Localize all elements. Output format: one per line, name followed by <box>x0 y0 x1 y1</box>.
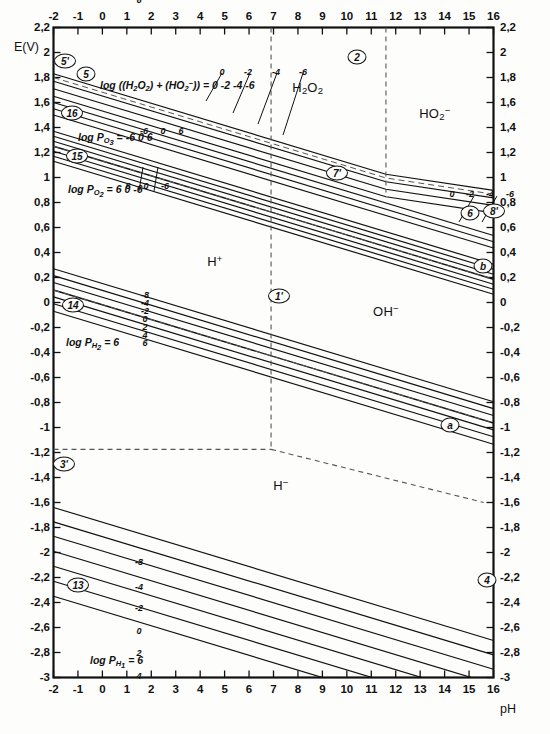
y-tick-label-right: 0,4 <box>500 247 516 259</box>
value-ph2-6: 6 <box>142 339 147 348</box>
x-tick-label-bottom: 14 <box>438 684 451 696</box>
x-tick-label-bottom: 0 <box>99 684 105 696</box>
reaction-badge-5[interactable]: 5 <box>77 67 96 82</box>
value-h2o2sum-1: -2 <box>244 68 252 77</box>
x-tick-label-bottom: -2 <box>48 684 58 696</box>
reaction-badge-16[interactable]: 16 <box>61 106 83 121</box>
reaction-badge-13[interactable]: 13 <box>67 578 89 593</box>
y-tick-label-left: -1,6 <box>6 497 50 509</box>
y-tick-label-right: -2,2 <box>500 572 520 584</box>
x-tick-label-top: 9 <box>319 11 325 23</box>
y-tick-label-right: -0,6 <box>500 372 520 384</box>
species-label-hminus: H− <box>273 477 288 493</box>
curve-po2-2 <box>54 141 494 274</box>
curve-po3-m6 <box>54 103 494 236</box>
y-tick-label-right: 2 <box>500 47 506 59</box>
y-tick-label-right: 1 <box>500 172 506 184</box>
x-axis-title: pH <box>500 702 516 716</box>
y-tick-label-right: -2 <box>500 547 510 559</box>
y-tick-label-right: 1,6 <box>500 97 516 109</box>
x-tick-label-bottom: 13 <box>414 684 427 696</box>
y-tick-label-left: -2,2 <box>6 572 50 584</box>
y-tick-label-right: -2,8 <box>500 647 520 659</box>
value-h2o2sum-2: -4 <box>272 68 280 77</box>
reaction-badge-14[interactable]: 14 <box>62 298 84 313</box>
x-tick-label-bottom: 2 <box>148 684 154 696</box>
value-h2o2sum-0: 0 <box>219 68 224 77</box>
x-tick-label-bottom: -1 <box>73 684 83 696</box>
reaction-badge-4[interactable]: 4 <box>478 573 497 588</box>
value-po2-2: -6 <box>161 182 169 191</box>
reaction-badge-1p[interactable]: 1' <box>268 289 290 304</box>
leader-h2o2-2 <box>258 73 277 124</box>
y-tick-label-right: 0 <box>500 297 506 309</box>
reaction-badge-8p[interactable]: 8' <box>483 204 505 219</box>
y-tick-label-left: -2,4 <box>6 597 50 609</box>
x-tick-label-top: -1 <box>73 11 83 23</box>
y-tick-label-right: 1,2 <box>500 147 516 159</box>
y-tick-label-right: 0,2 <box>500 272 516 284</box>
reaction-badge-b[interactable]: b <box>474 259 493 274</box>
reaction-badge-15[interactable]: 15 <box>66 149 88 164</box>
y-tick-label-left: 0,8 <box>6 197 50 209</box>
x-tick-label-bottom: 6 <box>246 684 252 696</box>
y-tick-label-right: -2,4 <box>500 597 520 609</box>
x-tick-label-top: 8 <box>295 11 301 23</box>
y-tick-label-left: -0,8 <box>6 397 50 409</box>
x-tick-label-top: 1 <box>124 11 130 23</box>
reaction-badge-2[interactable]: 2 <box>348 50 367 65</box>
reaction-badge-3p[interactable]: 3' <box>53 457 75 472</box>
y-tick-label-left: -1 <box>6 422 50 434</box>
reaction-badge-6[interactable]: 6 <box>461 206 480 221</box>
x-tick-label-top: 4 <box>197 11 203 23</box>
y-tick-label-left: -1,2 <box>6 447 50 459</box>
curve-ph2-4 <box>54 304 494 437</box>
curve-annotation-log-ph1: log PH1 = 6 <box>90 655 143 670</box>
x-tick-label-top: 5 <box>221 11 227 23</box>
y-tick-label-left: 0,6 <box>6 222 50 234</box>
species-label-h2o2: H2O2 <box>292 80 323 96</box>
y-tick-label-left: -0,2 <box>6 322 50 334</box>
value-po2-1: 0 <box>143 182 148 191</box>
curve-ph1-2 <box>54 566 494 699</box>
x-tick-label-bottom: 7 <box>270 684 276 696</box>
x-tick-label-top: 7 <box>270 11 276 23</box>
value-ph1-3: 0 <box>136 627 141 636</box>
value-h2o2sum-3: -6 <box>299 68 307 77</box>
x-tick-label-bottom: 5 <box>221 684 227 696</box>
reaction-badge-7p[interactable]: 7' <box>326 166 348 181</box>
value-po3-2: 6 <box>178 127 183 136</box>
curve-po2-m4 <box>54 156 494 289</box>
y-tick-label-left: 0,2 <box>6 272 50 284</box>
y-tick-label-right: -2,6 <box>500 622 520 634</box>
y-tick-label-left: -2,6 <box>6 622 50 634</box>
y-tick-label-right: -1,2 <box>500 447 520 459</box>
x-tick-label-top: 6 <box>246 11 252 23</box>
y-tick-label-left: -0,4 <box>6 347 50 359</box>
y-tick-label-left: 1,4 <box>6 122 50 134</box>
species-label-ho2m: HO2− <box>419 104 450 121</box>
species-label-hplus: H+ <box>207 253 222 269</box>
x-tick-label-bottom: 15 <box>463 684 476 696</box>
pourbaix-diagram-figure: E(V) pH -2-2-1-1001122334455667788991010… <box>0 0 550 734</box>
curve-ph2-6 <box>54 311 494 444</box>
y-tick-label-left: 1,8 <box>6 72 50 84</box>
x-tick-label-top: 15 <box>463 11 476 23</box>
reaction-badge-5p[interactable]: 5' <box>54 54 76 69</box>
value-po3-1: 0 <box>160 127 165 136</box>
y-tick-label-left: 0 <box>6 297 50 309</box>
value-ph1-2: -2 <box>135 604 143 613</box>
y-tick-label-right: -1,4 <box>500 472 520 484</box>
y-tick-label-left: -2,8 <box>6 647 50 659</box>
x-tick-label-bottom: 9 <box>319 684 325 696</box>
x-tick-label-bottom: 12 <box>389 684 402 696</box>
value-ph1-0: -8 <box>135 558 143 567</box>
x-tick-label-bottom: 8 <box>295 684 301 696</box>
curves-group <box>54 74 494 729</box>
y-tick-label-left: -0,6 <box>6 372 50 384</box>
value-ho2-3: -6 <box>506 190 514 199</box>
y-tick-label-right: -1,6 <box>500 497 520 509</box>
curve-ph1-m2 <box>54 536 494 669</box>
reaction-badge-a[interactable]: a <box>441 418 460 433</box>
x-tick-label-top: 2 <box>148 11 154 23</box>
